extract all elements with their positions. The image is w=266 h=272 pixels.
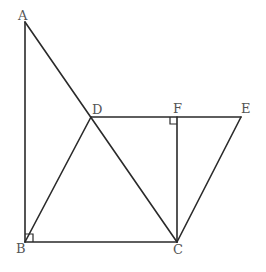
label-f: F bbox=[173, 101, 182, 116]
label-a: A bbox=[17, 8, 28, 23]
label-b: B bbox=[16, 241, 26, 256]
segment-ac bbox=[25, 22, 177, 242]
label-c: C bbox=[173, 242, 183, 257]
label-e: E bbox=[241, 101, 251, 116]
geometry-diagram: A B C D F E bbox=[0, 0, 266, 272]
segment-bd bbox=[25, 117, 91, 242]
right-angle-mark-f bbox=[170, 117, 177, 124]
segment-ec bbox=[177, 117, 241, 242]
label-d: D bbox=[92, 102, 102, 117]
